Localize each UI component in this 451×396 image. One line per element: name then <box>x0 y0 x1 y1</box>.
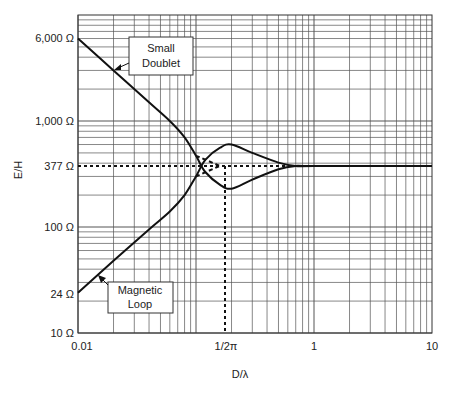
y-tick-label: 100 Ω <box>44 221 74 233</box>
arrow-head-icon <box>114 64 121 70</box>
x-axis-title: D/λ <box>232 368 249 380</box>
callout-text: Loop <box>128 298 152 310</box>
y-tick-label: 6,000 Ω <box>35 32 74 44</box>
y-tick-label: 1,000 Ω <box>35 115 74 127</box>
x-tick-label: 1/2π <box>215 340 238 352</box>
y-tick-label: 24 Ω <box>50 288 74 300</box>
callout-text: Doublet <box>142 57 180 69</box>
chart-canvas: Small Doublet Magnetic Loop 6,000 Ω 1,00… <box>0 0 451 396</box>
y-tick-label: 10 Ω <box>50 327 74 339</box>
magnetic-loop-callout: Magnetic Loop <box>98 275 173 313</box>
x-tick-label: 1 <box>311 340 317 352</box>
callout-text: Small <box>147 42 175 54</box>
small-doublet-callout: Small Doublet <box>114 37 193 75</box>
y-axis-title: E/H <box>12 161 24 179</box>
x-tick-label: 10 <box>426 340 438 352</box>
callout-text: Magnetic <box>118 284 163 296</box>
y-tick-label: 377 Ω <box>44 160 74 172</box>
x-tick-label: 0.01 <box>71 340 92 352</box>
